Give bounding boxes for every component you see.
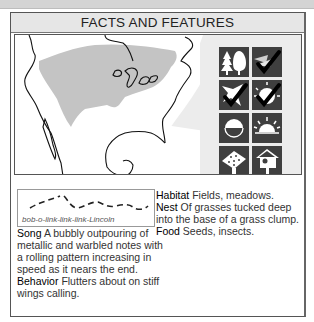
habitat-text: Fields, meadows. [192, 189, 274, 201]
behavior-label: Behavior [17, 275, 58, 287]
song-behavior-text: Song A bubbly outpouring of metallic and… [17, 227, 167, 299]
food-text: Seeds, insects. [183, 225, 254, 237]
feature-icons-grid [219, 47, 283, 175]
birdhouse-icon [252, 146, 282, 175]
food-paragraph: Food Seeds, insects. [156, 225, 306, 237]
flight-icon [219, 80, 249, 110]
song-sonogram-box: bob-o-link-link-link-Lincoln [17, 189, 155, 227]
habitat-label: Habitat [156, 189, 189, 201]
facts-panel: FACTS AND FEATURES [10, 12, 306, 317]
forest-icon [219, 47, 249, 77]
song-paragraph: Song A bubbly outpouring of metallic and… [17, 227, 167, 275]
habitat-nest-food-text: Habitat Fields, meadows. Nest Of grasses… [156, 189, 306, 237]
top-band [0, 0, 314, 9]
panel-title: FACTS AND FEATURES [11, 13, 304, 33]
food-label: Food [156, 225, 180, 237]
range-map [14, 34, 302, 175]
song-phonetic: bob-o-link-link-link-Lincoln [22, 215, 114, 224]
habitat-paragraph: Habitat Fields, meadows. [156, 189, 306, 201]
song-label: Song [17, 227, 42, 239]
nest-paragraph: Nest Of grasses tucked deep into the bas… [156, 201, 306, 225]
sun-icon [252, 80, 282, 110]
nest-label: Nest [156, 201, 178, 213]
grassland-icon [252, 47, 282, 77]
nest-text: Of grasses tucked deep into the base of … [156, 201, 299, 225]
sunrise-icon [252, 113, 282, 143]
behavior-paragraph: Behavior Flutters about on stiff wings c… [17, 275, 167, 299]
song-waveform-icon [18, 192, 154, 216]
feeder-icon [219, 146, 249, 175]
moon-icon [219, 113, 249, 143]
